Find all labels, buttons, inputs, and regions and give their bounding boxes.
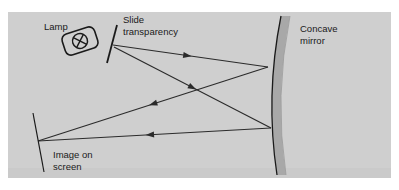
optics-diagram: Lamp Slide transparency Concave mirror I… bbox=[0, 0, 399, 190]
label-slide-line2: transparency bbox=[123, 26, 178, 37]
label-screen-line1: Image on bbox=[53, 149, 93, 160]
figure-container: Lamp Slide transparency Concave mirror I… bbox=[0, 0, 399, 190]
label-mirror-line1: Concave bbox=[300, 23, 338, 34]
label-slide-line1: Slide bbox=[123, 14, 144, 25]
label-screen-line2: screen bbox=[53, 161, 82, 172]
label-lamp: Lamp bbox=[44, 21, 68, 32]
label-mirror-line2: mirror bbox=[300, 35, 325, 46]
